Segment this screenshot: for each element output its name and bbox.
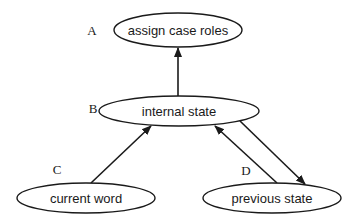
node-c-label: current word xyxy=(50,191,122,206)
node-a-label: assign case roles xyxy=(128,23,229,38)
node-b-label: internal state xyxy=(142,104,216,119)
letter-b: B xyxy=(89,101,98,116)
letter-a: A xyxy=(87,23,97,38)
letter-d: D xyxy=(241,163,250,178)
letter-c: C xyxy=(53,162,62,177)
node-assign-case-roles: assign case roles xyxy=(114,13,242,47)
node-d-label: previous state xyxy=(232,191,313,206)
node-internal-state: internal state xyxy=(99,96,259,126)
node-previous-state: previous state xyxy=(203,183,341,213)
node-current-word: current word xyxy=(17,183,155,213)
network-diagram: assign case roles A internal state B cur… xyxy=(0,0,357,221)
edge-c-to-b xyxy=(91,126,151,183)
